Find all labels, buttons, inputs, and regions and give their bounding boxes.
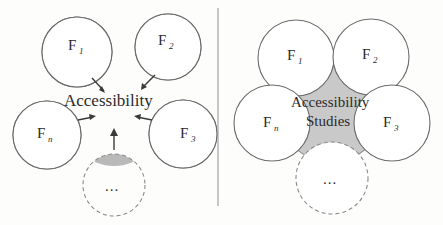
fn-label-base: F	[37, 125, 45, 141]
accessibility-studies-line1: Accessibility	[291, 94, 370, 110]
f1-label-base-right: F	[287, 47, 295, 63]
arrow-f3-to-center	[134, 114, 152, 120]
f2-label-base-right: F	[362, 46, 370, 62]
arrow-fn-to-center	[78, 114, 96, 120]
field-circle-f2-right: F 2	[333, 19, 409, 95]
panel-right: F 1 F 2 F n F 3 ...	[234, 19, 430, 214]
f3-label-base: F	[180, 125, 188, 141]
panel-left: F 1 F 2 F n	[13, 14, 217, 216]
f2-label-sub: 2	[169, 41, 174, 51]
f2-circle-right	[333, 19, 409, 95]
f2-circle-edge	[135, 14, 201, 80]
f3-label-sub: 3	[190, 134, 196, 144]
f3-label-base-right: F	[383, 114, 391, 130]
arrow-f2-to-center	[141, 75, 155, 90]
figure-root: F 1 F 2 F n	[0, 0, 443, 225]
ellipsis-shaded-cap	[68, 74, 160, 166]
fn-circle-edge	[13, 101, 81, 169]
accessibility-label: Accessibility	[64, 91, 153, 110]
f3-label-sub-right: 3	[393, 123, 399, 133]
ellipsis-dots-right: ...	[323, 171, 337, 187]
f1-circle-edge	[42, 17, 112, 87]
f1-label-sub: 1	[79, 46, 84, 56]
fn-label-sub: n	[48, 134, 53, 144]
f2-label-sub-right: 2	[373, 55, 378, 65]
fn-label-base-right: F	[263, 114, 271, 130]
figure-canvas: F 1 F 2 F n	[0, 0, 443, 225]
f1-label-sub-right: 1	[298, 56, 303, 66]
fn-label-sub-right: n	[274, 123, 279, 133]
f2-label-base: F	[158, 32, 166, 48]
f1-label-base: F	[68, 37, 76, 53]
accessibility-studies-line2: Studies	[306, 113, 350, 129]
field-circle-ellipsis-right: ...	[296, 142, 368, 214]
arrow-ellipsis-to-center	[110, 128, 118, 150]
ellipsis-dots: ...	[105, 178, 119, 194]
